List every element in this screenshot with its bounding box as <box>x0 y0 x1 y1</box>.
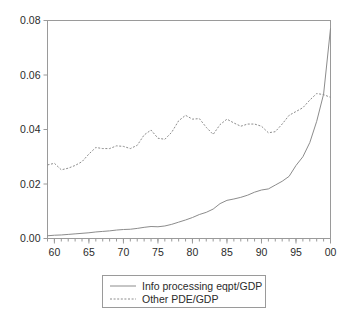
x-tick-label: 60 <box>49 246 61 258</box>
x-tick-label: 80 <box>187 246 199 258</box>
data-series-group <box>48 29 331 236</box>
y-tick-label: 0.06 <box>20 69 41 81</box>
plot-frame <box>48 21 331 239</box>
legend-label-other-pde: Other PDE/GDP <box>142 293 218 305</box>
legend-label-info-processing: Info processing eqpt/GDP <box>142 280 262 292</box>
x-tick-label: 00 <box>325 246 337 258</box>
y-axis-ticks <box>44 21 48 239</box>
x-tick-label: 70 <box>118 246 130 258</box>
plot-area <box>48 21 331 239</box>
y-tick-label: 0.04 <box>20 123 41 135</box>
x-axis-tick-labels: 606570758085909500 <box>49 246 337 258</box>
x-tick-label: 65 <box>83 246 95 258</box>
y-tick-label: 0.08 <box>20 14 41 26</box>
chart-figure: 0.000.020.040.060.08 606570758085909500 … <box>0 0 351 318</box>
legend: Info processing eqpt/GDP Other PDE/GDP <box>103 276 266 308</box>
y-tick-label: 0.00 <box>20 232 41 244</box>
y-tick-label: 0.02 <box>20 178 41 190</box>
x-tick-label: 95 <box>290 246 302 258</box>
x-tick-label: 90 <box>256 246 268 258</box>
chart-svg: 0.000.020.040.060.08 606570758085909500 … <box>0 0 351 318</box>
series-line-info-processing <box>48 29 331 236</box>
x-tick-label: 85 <box>221 246 233 258</box>
x-tick-label: 75 <box>152 246 164 258</box>
series-line-other-pde <box>48 94 331 170</box>
y-axis-tick-labels: 0.000.020.040.060.08 <box>20 14 41 244</box>
